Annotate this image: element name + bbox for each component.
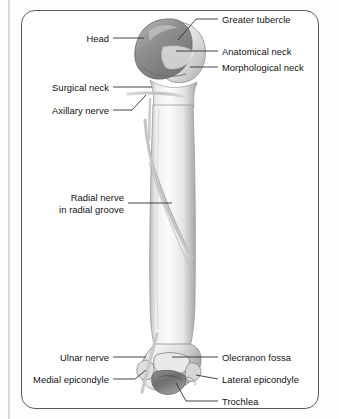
label-head: Head — [43, 33, 109, 45]
label-anatomical-neck: Anatomical neck — [222, 46, 292, 58]
label-morphological-neck: Morphological neck — [222, 62, 304, 74]
label-lateral-epicondyle: Lateral epicondyle — [222, 374, 299, 386]
label-radial-nerve-line1: Radial nerve — [34, 192, 124, 204]
label-radial-nerve-line2: in radial groove — [34, 204, 124, 216]
label-greater-tubercle: Greater tubercle — [222, 14, 291, 26]
label-axillary-nerve: Axillary nerve — [23, 105, 109, 117]
leader-axillary-nerve — [113, 95, 146, 110]
label-trochlea: Trochlea — [222, 396, 259, 408]
label-surgical-neck: Surgical neck — [23, 82, 109, 94]
label-olecranon-fossa: Olecranon fossa — [222, 352, 291, 364]
humeral-shaft — [149, 105, 195, 348]
label-medial-epicondyle: Medial epicondyle — [13, 374, 109, 386]
label-ulnar-nerve: Ulnar nerve — [33, 352, 109, 364]
axillary-nerve-branch — [149, 99, 150, 140]
lateral-epicondyle-shape — [185, 363, 201, 382]
figure-page: Greater tubercle Anatomical neck Morphol… — [0, 0, 339, 419]
